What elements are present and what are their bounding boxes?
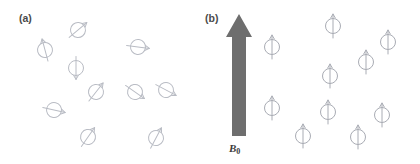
spin-a-6 <box>121 79 148 104</box>
spin-shaft <box>89 83 103 101</box>
spin-b-8 <box>321 100 336 124</box>
magnetic-field-label: B0 <box>229 143 240 154</box>
field-subscript: 0 <box>236 147 240 156</box>
spin-b-7 <box>296 124 311 148</box>
spin-a-7 <box>152 78 179 102</box>
spin-shaft <box>126 85 145 98</box>
spin-a-10 <box>144 124 168 151</box>
spin-alignment-figure: (a) (b) B0 <box>0 0 420 164</box>
spin-shaft <box>81 128 94 147</box>
spin-a-4 <box>69 57 84 80</box>
spin-b-9 <box>351 125 366 149</box>
spin-b-1 <box>265 35 280 59</box>
spin-b-5 <box>359 50 374 74</box>
spin-b-6 <box>265 96 280 120</box>
spin-a-9 <box>75 123 100 150</box>
spin-a-8 <box>41 100 67 120</box>
spin-a-5 <box>83 78 109 105</box>
spin-a-3 <box>126 38 151 56</box>
spin-a-2 <box>35 37 55 63</box>
panel-b-spin-layer <box>200 0 420 164</box>
spin-shaft <box>69 23 87 38</box>
panel-a-random-spins: (a) <box>0 0 200 164</box>
spin-a-1 <box>64 17 91 43</box>
spin-b-3 <box>326 14 341 38</box>
spin-b-2 <box>323 64 338 88</box>
spin-b-4 <box>381 30 396 54</box>
panel-a-spin-layer <box>0 0 200 164</box>
panel-b-aligned-spins: (b) B0 <box>200 0 420 164</box>
spin-b-10 <box>375 103 390 127</box>
